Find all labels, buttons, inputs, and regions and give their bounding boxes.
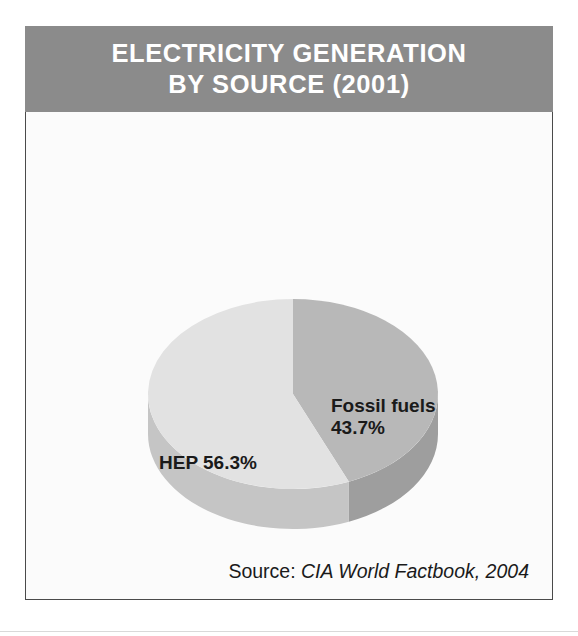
figure-container: ELECTRICITY GENERATION BY SOURCE (2001) — [25, 26, 553, 600]
chart-title-line-1: ELECTRICITY GENERATION — [111, 38, 466, 69]
chart-plot-area: Fossil fuels 43.7% HEP 56.3% Source: CIA… — [25, 112, 553, 600]
pie-chart-svg — [26, 112, 553, 600]
pie-label-fossil-fuels-name: Fossil fuels — [331, 395, 436, 417]
pie-label-fossil-fuels: Fossil fuels 43.7% — [331, 395, 436, 440]
source-note-value: CIA World Factbook, 2004 — [301, 560, 529, 582]
chart-title-line-2: BY SOURCE (2001) — [168, 69, 410, 100]
page-bottom-rule — [0, 631, 578, 632]
pie-label-hep: HEP 56.3% — [159, 452, 257, 474]
source-note-label: Source: — [228, 560, 295, 582]
chart-title-banner: ELECTRICITY GENERATION BY SOURCE (2001) — [25, 26, 553, 112]
source-note: Source: CIA World Factbook, 2004 — [228, 560, 529, 583]
pie-chart: Fossil fuels 43.7% HEP 56.3% — [26, 112, 553, 600]
pie-label-fossil-fuels-value: 43.7% — [331, 417, 436, 439]
